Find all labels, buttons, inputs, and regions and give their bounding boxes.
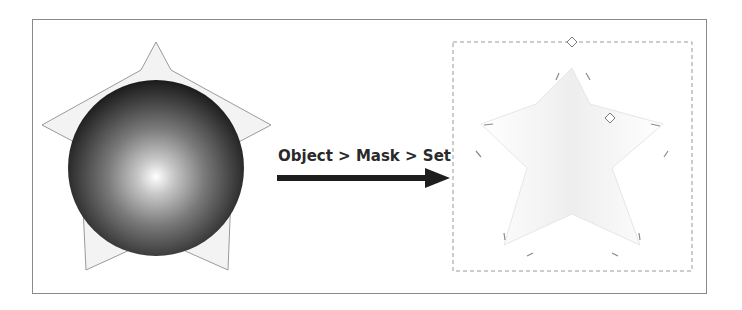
masked-result [453, 37, 692, 271]
arrow-icon [277, 168, 450, 188]
menu-path-caption: Object > Mask > Set [278, 147, 451, 165]
gradient-sphere [68, 80, 244, 256]
diamond-handle-top[interactable] [567, 37, 577, 47]
masked-star [481, 68, 663, 245]
